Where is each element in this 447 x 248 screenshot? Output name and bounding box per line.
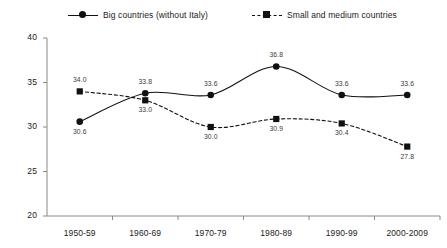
y-axis-label: 20 bbox=[15, 210, 37, 220]
data-point-label: 33.6 bbox=[194, 80, 228, 87]
data-point-label: 33.6 bbox=[325, 80, 359, 87]
data-point-circle bbox=[207, 92, 214, 99]
data-point-label: 30.6 bbox=[63, 128, 97, 135]
series-line-big-countries bbox=[80, 66, 408, 121]
data-point-square bbox=[273, 116, 279, 122]
plot-area bbox=[0, 0, 447, 248]
data-point-square bbox=[404, 143, 410, 149]
data-point-square bbox=[142, 97, 148, 103]
data-point-label: 34.0 bbox=[63, 76, 97, 83]
data-point-label: 33.0 bbox=[128, 106, 162, 113]
data-point-circle bbox=[338, 92, 345, 99]
y-axis-label: 25 bbox=[15, 166, 37, 176]
data-point-label: 30.0 bbox=[194, 133, 228, 140]
data-point-label: 30.4 bbox=[325, 129, 359, 136]
series-line-small-medium-countries bbox=[80, 91, 408, 146]
y-axis-label: 40 bbox=[15, 32, 37, 42]
data-point-square bbox=[208, 124, 214, 130]
data-point-square bbox=[77, 88, 83, 94]
y-axis-label: 30 bbox=[15, 121, 37, 131]
data-point-circle bbox=[404, 92, 411, 99]
data-point-label: 36.8 bbox=[259, 51, 293, 58]
y-axis-label: 35 bbox=[15, 77, 37, 87]
data-point-circle bbox=[76, 118, 83, 125]
data-point-circle bbox=[142, 90, 149, 97]
x-axis-label: 2000-2009 bbox=[367, 228, 447, 238]
data-point-circle bbox=[273, 63, 280, 70]
chart-container: Big countries (without Italy) Small and … bbox=[0, 0, 447, 248]
data-point-label: 30.9 bbox=[259, 125, 293, 132]
data-point-label: 33.8 bbox=[128, 78, 162, 85]
data-point-label: 33.6 bbox=[390, 80, 424, 87]
data-point-square bbox=[339, 120, 345, 126]
data-point-label: 27.8 bbox=[390, 153, 424, 160]
